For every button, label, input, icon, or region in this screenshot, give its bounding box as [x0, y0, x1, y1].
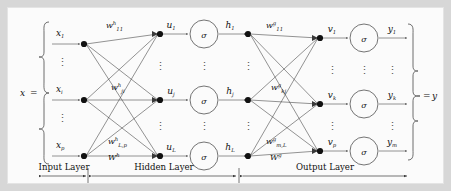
hidden-preactivation-labels: u1 uj uL: [166, 20, 176, 153]
output-vector-label: y: [431, 91, 438, 101]
input-vdots-upper: ⋮: [57, 56, 68, 69]
output-edge-arrowheads: [312, 35, 318, 154]
hidden-weight-labels: wh11 whji whL,p Wh: [106, 20, 127, 162]
output-weight-labels: wg11 wgkj wgm,L Wg: [266, 20, 287, 162]
hidden-sigma-vdots-upper: ⋮: [199, 60, 210, 73]
sigma-symbol-output-m: σ: [361, 148, 367, 157]
input-label-1: x1: [56, 28, 64, 39]
input-vector-label: x: [20, 88, 25, 98]
hidden-sigma-vdots-lower: ⋮: [199, 120, 210, 133]
weight-label-g-kj: wgkj: [271, 82, 286, 95]
label-u-1: u1: [166, 20, 175, 31]
output-sigma-vdots-upper: ⋮: [359, 64, 370, 77]
input-brace-upper: [39, 22, 49, 93]
output-pre-vdots-lower: ⋮: [327, 120, 338, 133]
input-label-p: xp: [56, 140, 65, 152]
weight-label-g-11: wg11: [266, 20, 283, 32]
diagram-canvas: x = x1 xi xp ⋮ ⋮: [8, 8, 443, 183]
label-h-1: h1: [225, 20, 234, 31]
label-u-L: uL: [166, 142, 176, 153]
output-equals-sign: =: [423, 91, 431, 101]
label-y-m: ym: [386, 137, 397, 148]
output-y-vdots-lower: ⋮: [387, 120, 398, 133]
sigma-symbol-hidden-1: σ: [201, 31, 207, 40]
label-h-L: hL: [225, 142, 235, 153]
output-input-nodes: [317, 35, 323, 154]
caption-output-layer: Output Layer: [296, 162, 355, 172]
hidden-fanout-vdots-lower: ⋮: [243, 120, 254, 133]
label-v-k: vk: [328, 90, 336, 101]
output-brace-group: = y: [408, 24, 438, 160]
input-node-p: [81, 153, 87, 159]
label-v-1: v1: [328, 24, 336, 35]
sigma-symbol-output-k: σ: [361, 101, 367, 110]
output-brace-lower: [408, 96, 420, 160]
hidden-output-nodes: [245, 31, 251, 159]
hidden-node-L: [157, 153, 163, 159]
hidden-weight-edges: [86, 34, 158, 156]
output-brace-upper: [408, 24, 420, 96]
input-equals-sign: =: [30, 88, 38, 98]
output-node-k: [317, 101, 323, 107]
label-y-1: y1: [387, 24, 396, 35]
hidden-node-j: [157, 97, 163, 103]
caption-input-layer: Input Layer: [38, 162, 90, 172]
hidden-node-vdots-lower: ⋮: [155, 120, 166, 133]
input-node-i: [81, 97, 87, 103]
sigma-symbol-output-1: σ: [361, 35, 367, 44]
label-h-j: hj: [226, 86, 234, 98]
input-nodes: [81, 41, 87, 159]
input-brace-lower: [39, 93, 49, 164]
hidden-fanout-vdots-upper: ⋮: [243, 60, 254, 73]
sigma-symbol-hidden-L: σ: [201, 153, 207, 162]
network-diagram-figure: x = x1 xi xp ⋮ ⋮: [8, 8, 443, 183]
hidden-node-vdots-upper: ⋮: [155, 60, 166, 73]
weight-label-h-11: wh11: [106, 20, 123, 32]
label-v-p: vp: [328, 137, 337, 149]
output-activation-neurons: σ σ σ: [350, 24, 378, 165]
hidden-activation-labels: h1 hj hL: [225, 20, 235, 153]
caption-hidden-layer: Hidden Layer: [134, 162, 194, 172]
output-pre-vdots-upper: ⋮: [327, 64, 338, 77]
weight-label-g-mL: wgm,L: [266, 136, 287, 148]
input-label-i: xi: [56, 84, 63, 95]
sigma-symbol-hidden-j: σ: [201, 97, 207, 106]
input-vdots-lower: ⋮: [57, 112, 68, 125]
input-labels: x1 xi xp ⋮ ⋮: [56, 28, 68, 152]
weight-matrix-label-h: Wh: [108, 152, 120, 162]
hidden-edge-arrowheads: [152, 31, 158, 159]
hidden-activation-neurons: σ σ σ: [190, 20, 218, 170]
input-node-1: [81, 41, 87, 47]
weight-label-h-Lp: whL,p: [108, 136, 127, 149]
output-y-vdots-upper: ⋮: [387, 64, 398, 77]
hidden-node-1: [157, 31, 163, 37]
output-weight-edges: [250, 34, 318, 156]
input-brace-group: x =: [20, 22, 49, 164]
hidden-input-nodes: [157, 31, 163, 159]
weight-matrix-label-g: Wg: [270, 152, 282, 162]
weight-label-h-ji: whji: [111, 82, 125, 95]
output-node-p: [317, 148, 323, 154]
label-u-j: uj: [167, 86, 175, 98]
output-node-1: [317, 35, 323, 41]
label-y-k: yk: [387, 90, 396, 101]
